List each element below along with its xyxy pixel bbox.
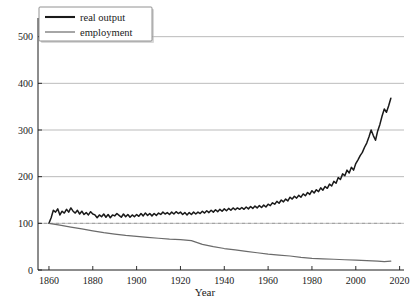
y-tick-label-400: 400: [18, 78, 33, 89]
x-tick-label-1960: 1960: [258, 275, 278, 286]
x-axis-ticks: [49, 266, 400, 270]
line-chart: 186018801900192019401960198020002020 010…: [0, 0, 414, 305]
chart-container: 186018801900192019401960198020002020 010…: [0, 0, 414, 305]
x-axis-tick-labels: 186018801900192019401960198020002020: [39, 275, 410, 286]
x-tick-label-1940: 1940: [214, 275, 234, 286]
series-group: [49, 98, 391, 261]
x-tick-label-1880: 1880: [83, 275, 103, 286]
y-axis-ticks: [38, 37, 42, 270]
x-tick-label-1920: 1920: [170, 275, 190, 286]
series-line-employment: [49, 223, 391, 261]
y-tick-label-0: 0: [28, 265, 33, 276]
gridlines: [38, 37, 404, 224]
x-tick-label-2020: 2020: [390, 275, 410, 286]
y-tick-label-200: 200: [18, 171, 33, 182]
x-axis-title: Year: [195, 286, 216, 298]
x-tick-label-1980: 1980: [302, 275, 322, 286]
legend: real output employment: [39, 7, 154, 43]
legend-label-employment: employment: [80, 27, 133, 38]
y-tick-label-100: 100: [18, 218, 33, 229]
x-tick-label-2000: 2000: [346, 275, 366, 286]
y-tick-label-300: 300: [18, 125, 33, 136]
legend-label-real-output: real output: [80, 12, 125, 23]
y-tick-label-500: 500: [18, 31, 33, 42]
x-tick-label-1860: 1860: [39, 275, 59, 286]
x-tick-label-1900: 1900: [127, 275, 147, 286]
series-line-real-output: [49, 98, 391, 223]
y-axis-tick-labels: 0100200300400500: [18, 31, 33, 275]
